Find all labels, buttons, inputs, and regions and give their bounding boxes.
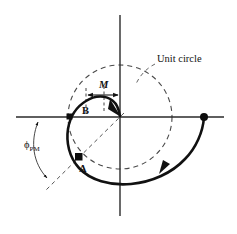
magnitude-label: M [99,80,108,91]
marker-point-a [75,153,83,161]
unit-circle-label: Unit circle [157,54,202,65]
point-b-label: B [82,106,89,117]
nyquist-figure: Unit circle M B A ϕPM [0,0,237,234]
phase-margin-subscript: PM [30,145,41,153]
point-a-label: A [79,164,87,175]
marker-start-point [200,113,208,121]
figure-canvas [0,0,237,234]
marker-point-b [67,114,73,120]
phase-margin-ray [44,113,124,192]
phase-margin-label: ϕPM [24,140,40,153]
unit-circle-leader-line [136,64,155,84]
